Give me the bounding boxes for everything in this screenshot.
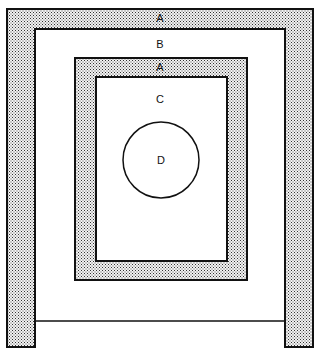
label-b: B: [156, 38, 163, 50]
label-outer-a: A: [156, 12, 164, 24]
label-d: D: [157, 154, 165, 166]
label-c: C: [156, 93, 164, 105]
label-inner-a: A: [156, 61, 164, 73]
nested-regions-diagram: A B A C D: [0, 0, 321, 350]
